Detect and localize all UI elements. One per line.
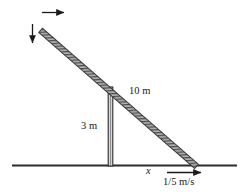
ladder-length-label: 10 m xyxy=(129,86,150,97)
diagram-canvas xyxy=(0,0,248,195)
post-height-label: 3 m xyxy=(81,121,97,132)
base-distance-label: x xyxy=(146,166,151,177)
ladder-diagram-figure: 10 m 3 m x 1/5 m/s xyxy=(0,0,248,195)
ladder-bar xyxy=(39,28,199,168)
vertical-post xyxy=(108,87,113,166)
base-velocity-label: 1/5 m/s xyxy=(163,177,194,188)
